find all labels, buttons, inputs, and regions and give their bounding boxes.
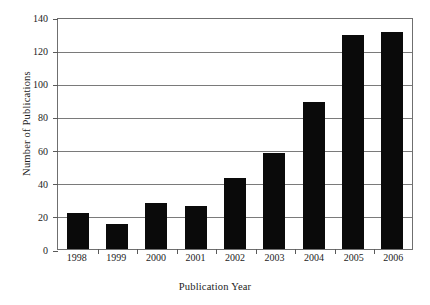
x-axis-tick xyxy=(177,249,178,254)
bar xyxy=(303,102,325,249)
bar-cell xyxy=(176,19,215,249)
y-axis-tick-label: 80 xyxy=(38,112,48,123)
bar-cell xyxy=(137,19,176,249)
x-axis-tick-label: 2004 xyxy=(304,252,324,263)
bar xyxy=(381,32,403,249)
x-axis-tick-label: 2005 xyxy=(344,252,364,263)
x-axis-tick-label: 2003 xyxy=(265,252,285,263)
x-axis-tick xyxy=(216,249,217,254)
bar-series xyxy=(58,19,412,249)
bar xyxy=(145,203,167,249)
x-axis-tick xyxy=(98,249,99,254)
y-axis-tick-label: 140 xyxy=(33,13,48,24)
y-axis-tick-label: 40 xyxy=(38,178,48,189)
y-axis-tick-label: 100 xyxy=(33,79,48,90)
bar xyxy=(185,206,207,249)
bar-cell xyxy=(294,19,333,249)
x-axis-tick xyxy=(374,249,375,254)
bar xyxy=(67,213,89,249)
x-axis-tick-label: 2002 xyxy=(225,252,245,263)
bar-cell xyxy=(58,19,97,249)
bar xyxy=(263,153,285,249)
x-axis-tick-label: 2000 xyxy=(146,252,166,263)
bar-cell xyxy=(333,19,372,249)
bar-cell xyxy=(215,19,254,249)
bar-chart: Number of Publications 02040608010012014… xyxy=(0,0,430,305)
x-axis-tick xyxy=(335,249,336,254)
y-axis-tick-label: 20 xyxy=(38,211,48,222)
bar xyxy=(224,178,246,249)
y-axis-tick-label: 0 xyxy=(43,245,48,256)
x-axis-tick-label: 2006 xyxy=(383,252,403,263)
bar-cell xyxy=(373,19,412,249)
y-axis-tick xyxy=(53,251,58,252)
x-axis-tick xyxy=(295,249,296,254)
y-axis-tick-label: 120 xyxy=(33,46,48,57)
x-axis-title: Publication Year xyxy=(0,281,430,292)
x-axis-tick-label: 1998 xyxy=(67,252,87,263)
bar-cell xyxy=(97,19,136,249)
bar xyxy=(342,35,364,249)
bar-cell xyxy=(255,19,294,249)
x-axis-tick xyxy=(137,249,138,254)
y-axis-tick-label: 60 xyxy=(38,145,48,156)
plot-area xyxy=(57,18,413,250)
bar xyxy=(106,224,128,249)
x-axis-tick-label: 2001 xyxy=(185,252,205,263)
y-axis-title: Number of Publications xyxy=(21,24,32,224)
x-axis-tick xyxy=(256,249,257,254)
x-axis-tick-label: 1999 xyxy=(106,252,126,263)
